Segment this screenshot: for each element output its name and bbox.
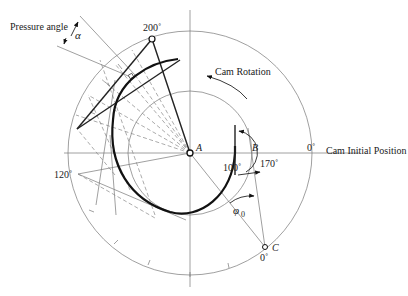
construction-lines: [76, 50, 265, 247]
angle-200-label: 200˚: [143, 22, 161, 33]
point-c-label: C: [272, 242, 279, 253]
point-b-label: B: [252, 142, 258, 153]
point-c-marker: [263, 245, 268, 250]
pressure-angle-label: Pressure angle: [10, 21, 69, 32]
point-200-marker: [149, 36, 155, 42]
alpha-label: α: [75, 29, 81, 41]
reference-axes: [64, 10, 360, 287]
zero-bottom-label: 0˚: [260, 252, 268, 263]
cam-initial-position-label: Cam Initial Position: [326, 145, 407, 156]
zero-right-label: 0˚: [307, 142, 315, 153]
cam-diagram: Pressure angle α 200˚ Cam Rotation A B 0…: [0, 0, 408, 296]
secondary-tangent: [77, 60, 180, 129]
phi-subscript: 0: [241, 210, 245, 219]
angle-100-label: 100˚: [223, 162, 241, 173]
alpha-arrow-bottom: [64, 38, 66, 44]
angle-120-label: 120˚: [54, 169, 72, 180]
phi-label: φ: [233, 204, 239, 216]
cam-rotation-label: Cam Rotation: [215, 66, 271, 77]
angle-170-label: 170˚: [260, 158, 278, 169]
point-a-label: A: [195, 142, 203, 153]
follower-lines: [77, 39, 190, 153]
point-a-marker: [187, 150, 193, 156]
